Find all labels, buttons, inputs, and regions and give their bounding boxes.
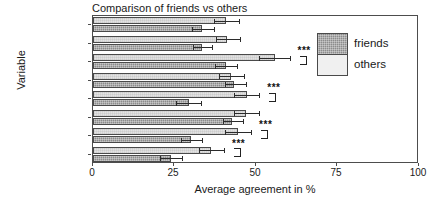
error-cap-afd2-friends-hi (202, 138, 203, 143)
bar-afd2-others (93, 128, 238, 135)
x-tick-label-75: 75 (321, 167, 351, 178)
x-axis-title: Average agreement in % (92, 183, 418, 195)
error-cap-immigration-others-hi (259, 93, 260, 98)
legend-label-friends: friends (354, 37, 389, 49)
y-tick-womensrights (88, 24, 91, 25)
error-cap-womensrights-others-hi (239, 19, 240, 24)
error-cap-immigration2-others-lo (219, 74, 220, 79)
x-tick-label-50: 50 (240, 167, 270, 178)
bar-afd-others (93, 147, 211, 154)
error-bar-afd2-others (225, 132, 251, 133)
error-cap-afd-others-lo (199, 148, 200, 153)
significance-bracket-afd2 (261, 130, 268, 139)
error-cap-demosoc-friends-lo (223, 119, 224, 124)
bar-leftdisconnect-friends (93, 62, 226, 69)
legend-label-others: others (354, 58, 386, 70)
bar-leftdisconnect-others (93, 54, 275, 61)
y-axis-title: Variable (15, 30, 27, 110)
x-tick-label-0: 0 (77, 167, 107, 178)
error-cap-womensrights-friends-hi (214, 27, 215, 32)
error-cap-leftdisconnect-others-lo (259, 56, 260, 61)
error-cap-russia-others-lo (216, 37, 217, 42)
error-bar-womensrights-friends (192, 29, 213, 30)
error-bar-afd-friends (160, 158, 182, 159)
error-cap-afd2-friends-lo (181, 138, 182, 143)
error-cap-afd-friends-lo (160, 156, 161, 161)
x-tick-50 (255, 163, 256, 166)
error-cap-afd-others-hi (224, 148, 225, 153)
error-bar-womensrights-others (214, 21, 239, 22)
y-tick-leftdisconnect (88, 61, 91, 62)
y-tick-immigration2 (88, 80, 91, 81)
significance-bracket-afd (234, 148, 241, 157)
legend-swatch-friends (317, 33, 348, 55)
legend-swatch-others (317, 54, 348, 76)
bar-russia-others (93, 36, 227, 43)
significance-stars-immigration: *** (267, 82, 280, 93)
bar-immigration-others (93, 91, 247, 98)
error-cap-leftdisconnect-friends-hi (237, 64, 238, 69)
error-cap-afd2-others-lo (225, 130, 226, 135)
bar-afd2-friends (93, 136, 191, 143)
significance-bracket-immigration (269, 93, 276, 102)
y-tick-russia (88, 43, 91, 44)
error-bar-afd2-friends (181, 140, 202, 141)
bar-womensrights-friends (93, 25, 202, 32)
bar-demosoc-others (93, 110, 246, 117)
error-cap-russia-friends-lo (193, 45, 194, 50)
error-cap-leftdisconnect-friends-lo (215, 64, 216, 69)
error-bar-demosoc-friends (223, 121, 243, 122)
error-cap-immigration2-others-hi (244, 74, 245, 79)
x-tick-100 (418, 163, 419, 166)
error-cap-leftdisconnect-others-hi (290, 56, 291, 61)
bar-immigration-friends (93, 99, 189, 106)
error-bar-demosoc-others (234, 113, 259, 114)
error-bar-leftdisconnect-others (259, 58, 289, 59)
y-tick-demosoc (88, 117, 91, 118)
x-tick-label-25: 25 (158, 167, 188, 178)
error-bar-leftdisconnect-friends (215, 66, 237, 67)
bar-immigration2-friends (93, 81, 234, 88)
x-tick-25 (173, 163, 174, 166)
error-bar-russia-others (216, 39, 239, 40)
error-cap-womensrights-friends-lo (192, 27, 193, 32)
error-cap-demosoc-friends-hi (243, 119, 244, 124)
error-bar-immigration2-others (219, 76, 244, 77)
significance-stars-afd2: *** (259, 119, 272, 130)
error-bar-afd-others (199, 150, 224, 151)
error-cap-immigration-others-lo (234, 93, 235, 98)
significance-bracket-leftdisconnect (300, 56, 307, 65)
error-cap-immigration-friends-hi (201, 101, 202, 106)
error-cap-immigration2-friends-lo (225, 82, 226, 87)
chart-root: Comparison of friends vs others Variable… (0, 0, 439, 202)
significance-stars-leftdisconnect: *** (298, 45, 311, 56)
error-bar-immigration-friends (176, 103, 201, 104)
y-tick-immigration (88, 98, 91, 99)
bar-russia-friends (93, 44, 202, 51)
x-tick-label-100: 100 (403, 167, 433, 178)
error-cap-demosoc-others-hi (259, 111, 260, 116)
chart-title: Comparison of friends vs others (92, 2, 247, 14)
error-bar-immigration2-friends (225, 84, 246, 85)
error-cap-immigration-friends-lo (176, 101, 177, 106)
y-tick-afd2 (88, 135, 91, 136)
error-bar-russia-friends (193, 47, 212, 48)
significance-stars-afd: *** (232, 138, 245, 149)
bar-womensrights-others (93, 17, 226, 24)
bar-demosoc-friends (93, 118, 232, 125)
y-tick-afd (88, 154, 91, 155)
x-tick-75 (336, 163, 337, 166)
error-cap-russia-others-hi (240, 37, 241, 42)
error-cap-afd-friends-hi (182, 156, 183, 161)
error-cap-immigration2-friends-hi (246, 82, 247, 87)
x-tick-0 (92, 163, 93, 166)
error-cap-afd2-others-hi (251, 130, 252, 135)
error-cap-womensrights-others-lo (214, 19, 215, 24)
error-cap-russia-friends-hi (212, 45, 213, 50)
bar-immigration2-others (93, 73, 231, 80)
error-bar-immigration-others (234, 95, 259, 96)
error-cap-demosoc-others-lo (234, 111, 235, 116)
